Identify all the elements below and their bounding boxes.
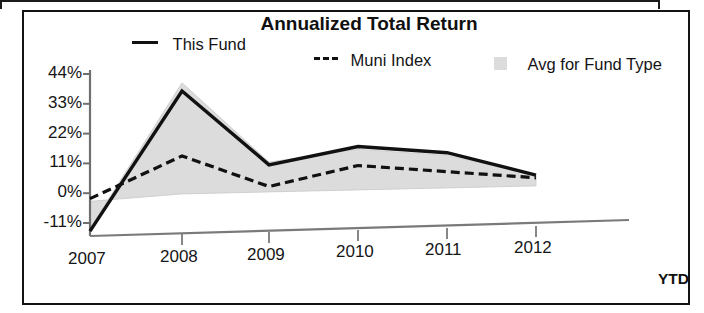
- x-axis-tick-label: 2012: [514, 238, 552, 258]
- scan-border-fragment: [0, 0, 660, 9]
- y-axis-tick-label: 22%: [24, 123, 82, 143]
- x-axis-tick-label: 2008: [160, 247, 198, 267]
- y-axis-tick-label: 0%: [24, 182, 82, 202]
- x-axis-tick-label: 2007: [68, 249, 106, 269]
- x-axis-tick-label: 2010: [336, 242, 374, 262]
- x-axis-tick-label: 2009: [247, 245, 285, 265]
- x-axis-ytd-label: YTD: [658, 270, 689, 288]
- y-axis-tick-label: 44%: [24, 63, 82, 83]
- y-axis-tick-label: 11%: [24, 152, 82, 172]
- chart-container: Annualized Total Return This Fund Muni I…: [22, 10, 690, 305]
- y-axis-tick-label: 33%: [24, 93, 82, 113]
- y-axis-tick-label: -11%: [24, 212, 82, 232]
- x-axis-tick-label: 2011: [425, 240, 462, 260]
